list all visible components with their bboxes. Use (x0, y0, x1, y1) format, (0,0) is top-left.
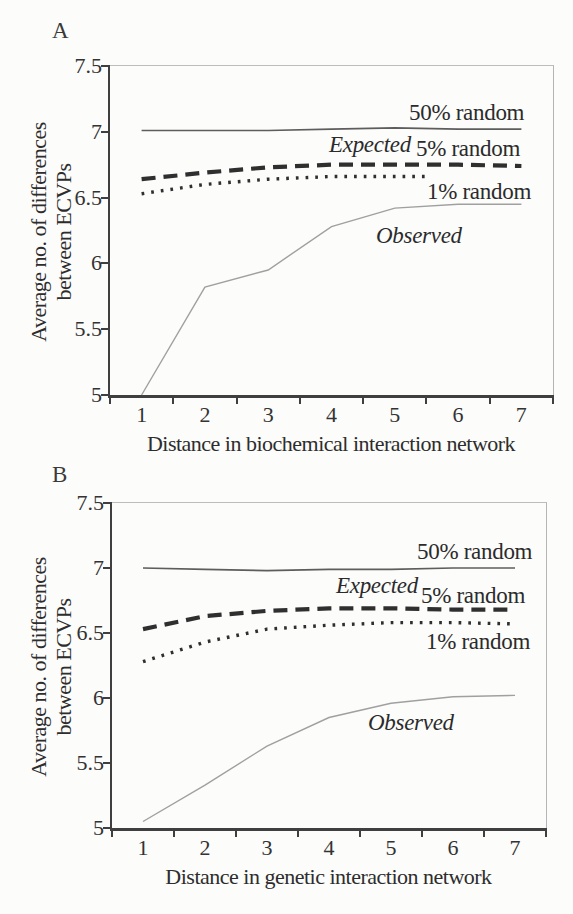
x-tick-label: 2 (188, 835, 222, 861)
chart-canvas (112, 503, 546, 828)
panel-a-label-1pct-random: 1% random (427, 180, 531, 203)
x-tick-label: 1 (126, 835, 160, 861)
x-tick-mark (545, 828, 547, 837)
series-5-random (143, 608, 515, 629)
y-tick-label: 6.5 (54, 620, 104, 646)
x-tick-mark (421, 828, 423, 837)
panel-a-y-axis-label: Average no. of differences between ECVPs (22, 65, 80, 398)
x-tick-mark (299, 395, 301, 404)
x-tick-mark (111, 828, 113, 837)
x-tick-label: 5 (374, 835, 408, 861)
x-tick-label: 3 (250, 835, 284, 861)
x-tick-mark (236, 395, 238, 404)
y-tick-mark (103, 502, 112, 504)
x-tick-label: 6 (436, 835, 470, 861)
series-5-random (142, 165, 522, 180)
y-tick-mark (101, 65, 110, 67)
panel-a-label-5pct-random: 5% random (416, 137, 520, 160)
panel-b-plot-area: 12345677.576.565.55 (110, 502, 547, 831)
y-tick-mark (101, 262, 110, 264)
panel-b-y-axis-label: Average no. of differences between ECVPs (22, 502, 80, 831)
x-tick-label: 4 (315, 402, 349, 428)
panel-a-plot-area: 12345677.576.565.55 (108, 65, 554, 398)
panel-a-label-50pct-random: 50% random (409, 101, 524, 124)
panel-a-x-axis-title: Distance in biochemical interaction netw… (108, 431, 554, 457)
y-tick-label: 7 (54, 555, 104, 581)
y-axis-label-line2: between ECVPs (51, 557, 76, 777)
x-tick-label: 1 (125, 402, 159, 428)
y-tick-mark (103, 827, 112, 829)
panel-b: B Average no. of differences between ECV… (0, 0, 573, 914)
x-tick-mark (173, 828, 175, 837)
y-tick-label: 7.5 (52, 53, 102, 79)
x-tick-label: 7 (504, 402, 538, 428)
x-tick-label: 7 (498, 835, 532, 861)
series-observed (142, 204, 522, 395)
x-tick-mark (235, 828, 237, 837)
x-tick-mark (172, 395, 174, 404)
x-tick-label: 4 (312, 835, 346, 861)
y-tick-mark (101, 328, 110, 330)
chart-canvas (110, 66, 553, 395)
y-axis-label-line2: between ECVPs (51, 122, 76, 342)
panel-b-label-observed: Observed (368, 711, 454, 734)
y-tick-mark (101, 131, 110, 133)
y-tick-label: 6 (52, 250, 102, 276)
x-tick-mark (109, 395, 111, 404)
y-tick-label: 5 (54, 815, 104, 841)
y-axis-label-line1: Average no. of differences (26, 557, 51, 777)
x-tick-label: 2 (188, 402, 222, 428)
panel-a: A Average no. of differences between ECV… (0, 0, 573, 914)
y-tick-label: 5.5 (54, 750, 104, 776)
series-50-random (142, 128, 522, 131)
figure-scan: { "panels": [ { "letter": "A", "expected… (0, 0, 573, 914)
y-tick-label: 5.5 (52, 316, 102, 342)
x-tick-mark (489, 395, 491, 404)
series-1-random (143, 623, 515, 662)
y-tick-mark (101, 394, 110, 396)
y-tick-label: 5 (52, 382, 102, 408)
y-tick-label: 6 (54, 685, 104, 711)
y-tick-mark (103, 762, 112, 764)
y-tick-mark (103, 567, 112, 569)
x-tick-mark (425, 395, 427, 404)
y-tick-mark (103, 632, 112, 634)
y-tick-mark (103, 697, 112, 699)
panel-b-letter: B (52, 462, 67, 488)
x-tick-label: 5 (378, 402, 412, 428)
panel-b-label-5pct-random: 5% random (421, 584, 525, 607)
panel-b-label-50pct-random: 50% random (417, 540, 532, 563)
panel-a-label-expected: Expected (329, 133, 411, 156)
x-tick-label: 3 (251, 402, 285, 428)
series-1-random (142, 177, 427, 194)
y-axis-label-line1: Average no. of differences (26, 122, 51, 342)
panel-b-label-expected: Expected (336, 574, 418, 597)
panel-b-label-1pct-random: 1% random (426, 630, 530, 653)
y-tick-label: 7 (52, 119, 102, 145)
panel-b-x-axis-title: Distance in genetic interaction network (110, 864, 547, 890)
series-50-random (143, 568, 515, 571)
y-tick-label: 7.5 (54, 490, 104, 516)
x-tick-mark (359, 828, 361, 837)
x-tick-mark (362, 395, 364, 404)
x-tick-label: 6 (441, 402, 475, 428)
panel-a-letter: A (52, 18, 69, 44)
y-tick-mark (101, 197, 110, 199)
x-tick-mark (483, 828, 485, 837)
x-tick-mark (552, 395, 554, 404)
series-observed (143, 695, 515, 821)
y-tick-label: 6.5 (52, 185, 102, 211)
panel-a-label-observed: Observed (376, 224, 462, 247)
x-tick-mark (297, 828, 299, 837)
